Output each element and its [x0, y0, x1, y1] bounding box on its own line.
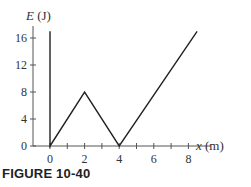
y-tick-label: 0 — [21, 139, 27, 153]
x-tick-label: 0 — [47, 152, 53, 166]
x-axis-label: x (m) — [195, 138, 224, 153]
x-tick-label: 8 — [185, 152, 191, 166]
y-tick-label: 12 — [15, 58, 27, 72]
y-tick-label: 8 — [21, 85, 27, 99]
figure-caption: FIGURE 10-40 — [2, 166, 90, 181]
axes: 048121602468 — [15, 26, 211, 166]
energy-curve — [50, 31, 197, 146]
y-tick-label: 16 — [15, 31, 27, 45]
x-tick-label: 4 — [116, 152, 122, 166]
data-series — [50, 31, 197, 146]
x-tick-label: 2 — [82, 152, 88, 166]
y-tick-label: 4 — [21, 112, 27, 126]
x-tick-label: 6 — [151, 152, 157, 166]
y-axis-label: E (J) — [25, 8, 51, 23]
energy-chart: 048121602468 E (J) x (m) — [0, 0, 251, 187]
